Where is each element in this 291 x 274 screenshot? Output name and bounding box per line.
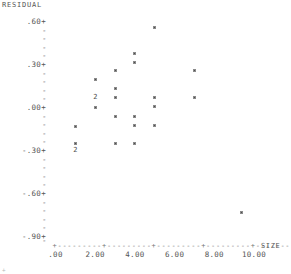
y-tick-label: -.60+ [8,190,46,198]
data-point [74,142,77,145]
x-tick-label: 6.00 [155,251,195,259]
data-point [94,78,97,81]
x-tick-label: .00 [36,251,76,259]
data-point [133,61,136,64]
data-point [193,69,196,72]
x-tick-label: 4.00 [115,251,155,259]
data-point [153,96,156,99]
x-axis-line: +---------+---------+---------+---------… [53,242,291,250]
data-point [114,87,117,90]
y-minor-tick: - [42,121,47,129]
data-point-count-label: 2 [73,147,77,154]
x-axis-title: SIZE [261,242,280,250]
data-point [114,96,117,99]
data-point [193,96,196,99]
data-point [114,115,117,118]
x-tick-label: 8.00 [194,251,234,259]
data-point-count-label: 2 [93,94,97,101]
x-tick-label: 10.00 [234,251,274,259]
data-point [74,125,77,128]
y-tick-label: .30+ [8,61,46,69]
x-tick-label: 2.00 [75,251,115,259]
y-minor-tick: - [42,35,47,43]
data-point [153,105,156,108]
scatter-plot: RESIDUAL .60+----.30+----.00+-----.30+--… [0,0,290,274]
corner-mark: + [2,266,6,273]
data-point [240,211,243,214]
y-tick-label: .00+ [8,104,46,112]
y-minor-tick: - [42,207,47,215]
y-minor-tick: - [42,164,47,172]
y-tick-label: .60+ [8,18,46,26]
y-tick-label: -.30+ [8,147,46,155]
data-point [114,142,117,145]
data-point [133,142,136,145]
data-point [114,69,117,72]
y-minor-tick: - [42,78,47,86]
data-point [133,52,136,55]
y-axis-title: RESIDUAL [2,1,42,9]
y-minor-tick: - [42,237,47,245]
data-point [153,124,156,127]
data-point [133,115,136,118]
data-point [153,26,156,29]
y-tick-label: -.90+ [8,233,46,241]
data-point [94,106,97,109]
data-point [133,124,136,127]
